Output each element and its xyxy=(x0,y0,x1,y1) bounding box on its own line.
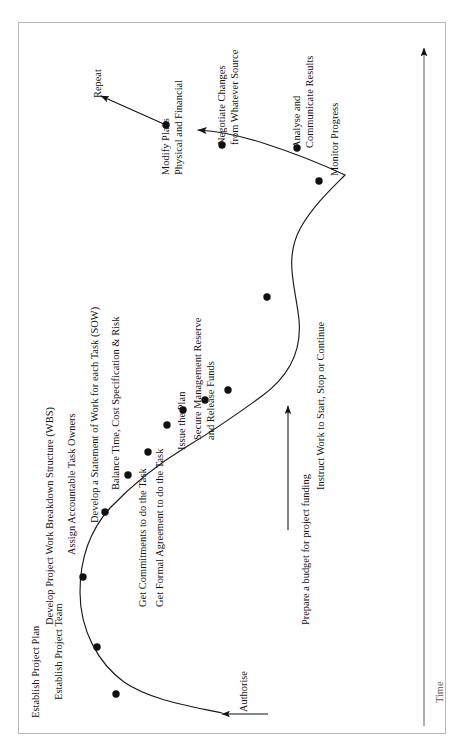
label-develop-project-wbs: Develop Project Work Breakdown Structure… xyxy=(44,407,56,625)
dot-instruct-work-start-stop-continue[interactable] xyxy=(263,293,270,300)
dot-secure-management-reserve[interactable] xyxy=(224,386,231,393)
label-instruct-work-start-stop-continue: Instruct Work to Start, Stop or Continue xyxy=(315,322,327,490)
label-develop-statement-of-work: Develop a Statement of Work for each Tas… xyxy=(89,307,101,523)
label-negotiate-line1: Negotiate Changes xyxy=(216,50,229,145)
label-modify-line2: Physical and Financial xyxy=(173,80,186,175)
label-analyse-line2: Communicate Results xyxy=(304,56,317,148)
dot-balance-time-cost-spec-risk[interactable] xyxy=(144,448,151,455)
label-get-formal-agreement-to-do-task: Get Formal Agreement to do the Task xyxy=(154,449,166,607)
label-negotiate-line2: from Whatever Source xyxy=(229,50,242,145)
dot-establish-project-team[interactable] xyxy=(112,690,119,697)
label-analyse-line1: Analyse and xyxy=(291,56,304,148)
dot-assign-accountable-task-owners[interactable] xyxy=(101,508,108,515)
label-establish-project-plan: Establish Project Plan xyxy=(30,626,42,718)
label-repeat: Repeat xyxy=(92,69,103,98)
label-authorise: Authorise xyxy=(238,671,249,712)
label-modify-plans: Modify Plans Physical and Financial xyxy=(160,80,185,175)
label-negotiate-changes: Negotiate Changes from Whatever Source xyxy=(216,50,241,145)
label-secure-management-reserve-line2: and Release Funds xyxy=(205,318,218,440)
dot-develop-project-wbs[interactable] xyxy=(79,573,86,580)
label-monitor-progress: Monitor Progress xyxy=(329,103,341,176)
label-assign-accountable-task-owners: Assign Accountable Task Owners xyxy=(66,413,78,555)
label-modify-line1: Modify Plans xyxy=(160,80,173,175)
dot-establish-project-plan[interactable] xyxy=(93,643,100,650)
diagram-page: Establish Project Plan Establish Project… xyxy=(0,0,465,752)
dot-get-commitments-to-do-the-task[interactable] xyxy=(163,421,170,428)
label-analyse-and-communicate-results: Analyse and Communicate Results xyxy=(291,56,316,148)
label-issue-the-plan: Issue the Plan xyxy=(176,392,188,450)
label-secure-management-reserve: Secure Management Reserve and Release Fu… xyxy=(192,318,217,440)
label-prepare-budget: Prepare a budget for project funding xyxy=(300,474,311,625)
label-balance-time-cost-spec-risk: Balance Time, Cost Specification & Risk xyxy=(110,317,122,490)
label-get-commitments-to-do-the-task: Get Commitments to do the Task xyxy=(137,468,149,607)
dot-develop-statement-of-work[interactable] xyxy=(124,471,131,478)
dot-monitor-progress[interactable] xyxy=(315,177,322,184)
label-secure-management-reserve-line1: Secure Management Reserve xyxy=(192,318,205,440)
repeat-arrow xyxy=(101,96,166,125)
label-time-axis: Time xyxy=(434,681,445,703)
